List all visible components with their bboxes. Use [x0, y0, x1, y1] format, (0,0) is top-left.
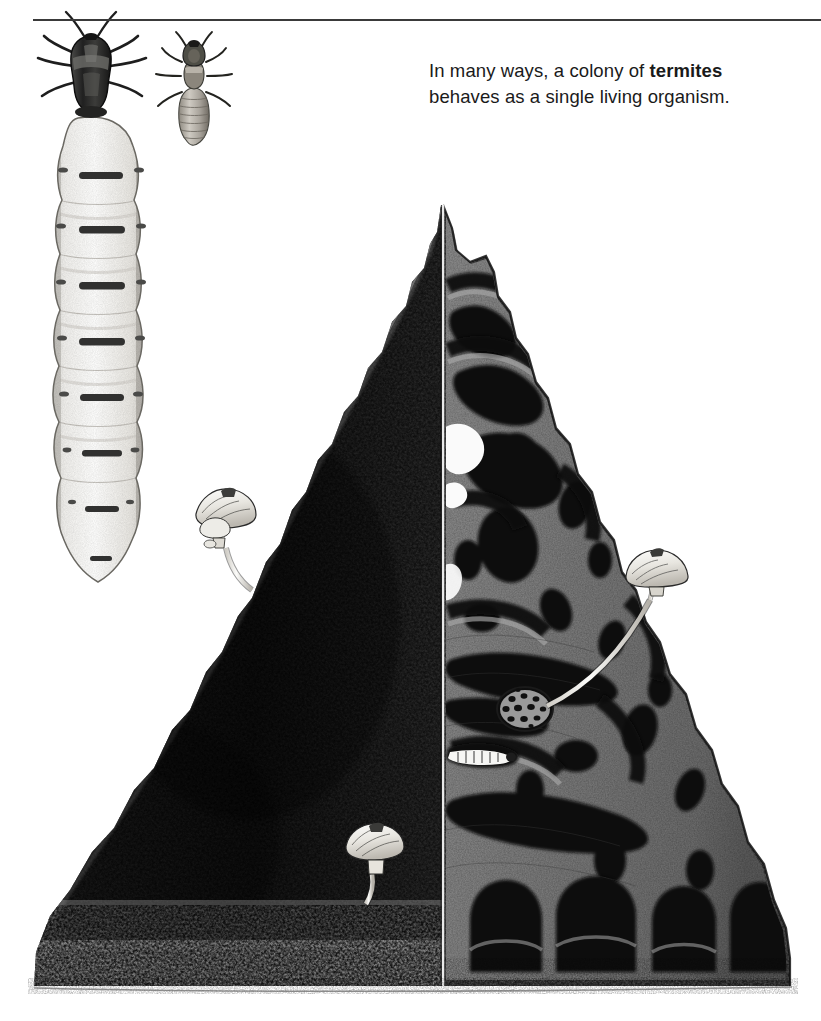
caption-bold-term: termites	[650, 60, 723, 81]
mound-cutaway-right	[440, 190, 800, 992]
fungus-comb-chamber	[496, 686, 554, 732]
caption-text-after: behaves as a single living organism.	[429, 86, 730, 107]
figure-caption: In many ways, a colony of termites behav…	[429, 58, 789, 109]
caption-text-before: In many ways, a colony of	[429, 60, 650, 81]
termite-worker-specimen	[156, 32, 232, 145]
figure-page: In many ways, a colony of termites behav…	[0, 0, 821, 1021]
ground-line	[28, 978, 798, 994]
termite-illustration	[0, 0, 821, 1021]
termite-queen-specimen	[38, 12, 155, 598]
header-divider-rule	[33, 19, 821, 21]
mushroom-upper-left	[196, 488, 256, 590]
